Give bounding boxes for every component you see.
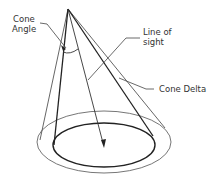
line-of-sight-label-line1: Line of bbox=[143, 27, 173, 37]
cone-angle-label-line2: Angle bbox=[12, 24, 36, 34]
cone-angle-arc bbox=[63, 49, 78, 53]
cone-angle-label-line1: Cone bbox=[13, 14, 35, 24]
cone-angle-arrowhead bbox=[61, 45, 66, 51]
inner-cone-right-edge bbox=[68, 9, 153, 136]
line-of-sight-label-line2: sight bbox=[143, 37, 165, 47]
line-of-sight-axis bbox=[68, 9, 103, 143]
inner-cone-left-edge bbox=[54, 9, 68, 145]
cone-delta-leader bbox=[119, 78, 154, 89]
cone-delta-label: Cone Delta bbox=[159, 84, 206, 94]
outer-cone-left-edge bbox=[40, 9, 68, 140]
line-of-sight-arrowhead bbox=[101, 139, 106, 148]
line-of-sight-leader bbox=[88, 38, 140, 80]
cone-diagram-svg: Cone Angle Line of sight Cone Delta bbox=[0, 0, 221, 188]
cone-diagram: Cone Angle Line of sight Cone Delta bbox=[0, 0, 221, 188]
